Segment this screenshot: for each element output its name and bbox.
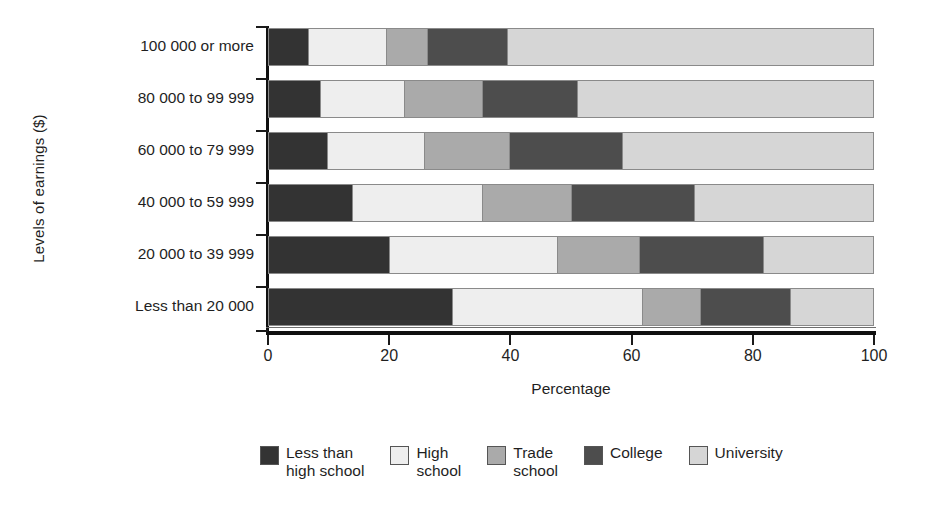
bar-segment xyxy=(390,237,559,273)
legend-label: University xyxy=(715,444,783,462)
bar-segment xyxy=(483,185,572,221)
bar-segment xyxy=(405,81,483,117)
legend-item[interactable]: Less than high school xyxy=(260,444,364,480)
y-axis-tick-label: Less than 20 000 xyxy=(24,297,254,315)
y-axis-tick xyxy=(256,182,268,184)
bar-segment xyxy=(269,289,453,325)
y-axis-tick xyxy=(256,26,268,28)
bar-segment xyxy=(428,29,508,65)
bar-segment xyxy=(387,29,429,65)
legend-item[interactable]: College xyxy=(584,444,663,465)
stacked-bar-chart: Levels of earnings ($) 100 000 or more80… xyxy=(0,0,942,518)
legend-swatch-icon xyxy=(584,446,603,465)
x-axis-tick xyxy=(752,335,754,345)
bar-segment xyxy=(510,133,623,169)
bar-segment xyxy=(321,81,406,117)
y-axis-tick xyxy=(256,234,268,236)
y-axis-tick-label: 100 000 or more xyxy=(24,37,254,55)
chart-legend: Less than high schoolHigh schoolTrade sc… xyxy=(260,444,783,480)
bar-segment xyxy=(558,237,640,273)
bar-segment xyxy=(453,289,643,325)
x-axis-tick xyxy=(873,335,875,345)
x-axis-tick xyxy=(388,335,390,345)
x-axis-tick-label: 0 xyxy=(238,347,298,365)
y-axis-labels: 100 000 or more80 000 to 99 99960 000 to… xyxy=(14,0,254,340)
legend-item[interactable]: High school xyxy=(390,444,461,480)
bar-segment xyxy=(578,81,873,117)
plot-area xyxy=(268,26,874,332)
bar-segment xyxy=(695,185,873,221)
bar-segment xyxy=(269,81,321,117)
y-axis-tick-label: 60 000 to 79 999 xyxy=(24,141,254,159)
legend-item[interactable]: University xyxy=(689,444,783,465)
bar-segment xyxy=(309,29,387,65)
bar-row xyxy=(268,132,874,170)
bar-segment xyxy=(269,29,309,65)
x-axis-tick-label: 40 xyxy=(480,347,540,365)
bar-segment xyxy=(701,289,791,325)
x-axis-tick-label: 20 xyxy=(359,347,419,365)
legend-label: Trade school xyxy=(513,444,558,480)
bar-segment xyxy=(269,237,390,273)
bar-segment xyxy=(572,185,695,221)
x-axis-tick-label: 80 xyxy=(723,347,783,365)
x-axis-tick xyxy=(631,335,633,345)
y-axis-tick-label: 40 000 to 59 999 xyxy=(24,193,254,211)
legend-label: Less than high school xyxy=(286,444,364,480)
y-axis-tick xyxy=(256,78,268,80)
y-axis-tick xyxy=(256,286,268,288)
y-axis-tick xyxy=(256,330,268,332)
legend-item[interactable]: Trade school xyxy=(487,444,558,480)
bar-row xyxy=(268,236,874,274)
bar-segment xyxy=(791,289,873,325)
bar-segment xyxy=(269,133,328,169)
y-axis-tick-label: 80 000 to 99 999 xyxy=(24,89,254,107)
bar-segment xyxy=(508,29,873,65)
legend-swatch-icon xyxy=(260,446,279,465)
y-axis-tick xyxy=(256,130,268,132)
legend-label: College xyxy=(610,444,663,462)
bar-segment xyxy=(623,133,873,169)
legend-swatch-icon xyxy=(689,446,708,465)
bar-row xyxy=(268,288,874,326)
bar-row xyxy=(268,28,874,66)
bar-segment xyxy=(269,185,353,221)
bar-segment xyxy=(425,133,510,169)
x-axis-tick xyxy=(509,335,511,345)
legend-swatch-icon xyxy=(390,446,409,465)
bar-segment xyxy=(353,185,483,221)
bar-segment xyxy=(640,237,764,273)
bar-row xyxy=(268,184,874,222)
y-axis-tick-label: 20 000 to 39 999 xyxy=(24,245,254,263)
bar-segment xyxy=(764,237,873,273)
bar-segment xyxy=(328,133,426,169)
bar-segment xyxy=(643,289,702,325)
x-axis-title: Percentage xyxy=(268,380,874,398)
bar-segment xyxy=(483,81,578,117)
x-axis-tick-label: 60 xyxy=(602,347,662,365)
bar-row xyxy=(268,80,874,118)
x-axis-tick xyxy=(267,335,269,345)
x-axis-tick-label: 100 xyxy=(844,347,904,365)
legend-label: High school xyxy=(416,444,461,480)
legend-swatch-icon xyxy=(487,446,506,465)
